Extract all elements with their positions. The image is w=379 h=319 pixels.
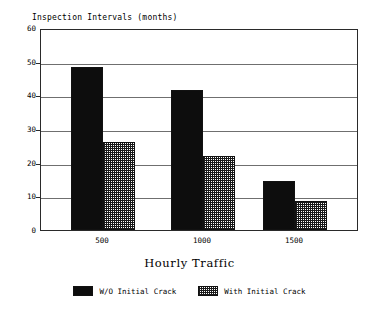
y-axis-tick-label: 40 (16, 92, 36, 100)
x-axis-tick-label: 1000 (172, 236, 232, 245)
y-axis-tick-label: 10 (16, 193, 36, 201)
bar (71, 67, 103, 230)
plot-inner (41, 30, 357, 230)
y-axis-title: Inspection Intervals (months) (32, 13, 177, 22)
legend-swatch (198, 286, 218, 296)
bar (263, 181, 295, 230)
bar (203, 156, 235, 230)
y-axis-tick-label: 20 (16, 160, 36, 168)
chart-legend: W/O Initial CrackWith Initial Crack (0, 286, 379, 296)
bar (295, 201, 327, 230)
y-axis-tick-label: 0 (16, 227, 36, 235)
legend-item: With Initial Crack (198, 286, 305, 296)
legend-label: With Initial Crack (224, 287, 305, 296)
bar-chart: Inspection Intervals (months) 0102030405… (0, 0, 379, 319)
bar (171, 90, 203, 230)
y-axis-tick-label: 60 (16, 25, 36, 33)
legend-swatch (73, 286, 93, 296)
x-axis-tick-label: 1500 (264, 236, 324, 245)
plot-area (40, 29, 358, 231)
y-axis-tick-label: 30 (16, 126, 36, 134)
gridline (41, 64, 357, 65)
bar (103, 142, 135, 230)
y-axis-tick-label: 50 (16, 59, 36, 67)
x-axis-title: Hourly Traffic (0, 256, 379, 270)
legend-label: W/O Initial Crack (99, 287, 176, 296)
legend-item: W/O Initial Crack (73, 286, 176, 296)
x-axis-tick-label: 500 (72, 236, 132, 245)
